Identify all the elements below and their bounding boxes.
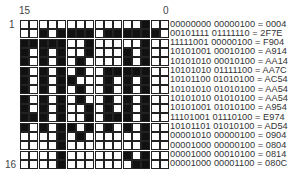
bit-cell[interactable] [104,76,113,85]
bit-cell[interactable] [20,57,29,66]
bit-cell[interactable] [57,95,66,104]
bit-cell[interactable] [39,141,48,150]
bit-cell[interactable] [20,29,29,38]
bit-cell[interactable] [85,20,94,29]
bit-cell[interactable] [48,39,57,48]
bit-cell[interactable] [48,95,57,104]
bit-cell[interactable] [76,95,85,104]
bit-cell[interactable] [76,160,85,169]
bit-cell[interactable] [29,57,38,66]
bit-cell[interactable] [132,95,141,104]
bit-cell[interactable] [48,151,57,160]
bit-cell[interactable] [76,132,85,141]
bit-cell[interactable] [57,123,66,132]
bit-cell[interactable] [20,39,29,48]
bit-cell[interactable] [160,57,169,66]
bit-cell[interactable] [67,132,76,141]
bit-cell[interactable] [151,39,160,48]
bit-cell[interactable] [160,104,169,113]
bit-cell[interactable] [20,141,29,150]
bit-cell[interactable] [151,57,160,66]
bit-cell[interactable] [104,160,113,169]
bit-cell[interactable] [20,123,29,132]
bit-cell[interactable] [67,57,76,66]
bit-cell[interactable] [141,20,150,29]
bit-cell[interactable] [20,20,29,29]
bit-cell[interactable] [39,85,48,94]
bit-cell[interactable] [29,160,38,169]
bit-cell[interactable] [95,39,104,48]
bit-cell[interactable] [67,76,76,85]
bit-cell[interactable] [95,123,104,132]
bit-cell[interactable] [95,76,104,85]
bit-cell[interactable] [29,20,38,29]
bit-cell[interactable] [123,123,132,132]
bit-cell[interactable] [141,123,150,132]
bit-cell[interactable] [67,141,76,150]
bit-cell[interactable] [141,48,150,57]
bit-cell[interactable] [141,95,150,104]
bit-cell[interactable] [132,104,141,113]
bit-cell[interactable] [85,132,94,141]
bit-cell[interactable] [113,151,122,160]
bit-cell[interactable] [104,113,113,122]
bit-cell[interactable] [113,57,122,66]
bit-cell[interactable] [95,141,104,150]
bit-cell[interactable] [67,104,76,113]
bit-cell[interactable] [95,113,104,122]
bit-cell[interactable] [29,85,38,94]
bit-cell[interactable] [39,95,48,104]
bit-cell[interactable] [160,48,169,57]
bit-cell[interactable] [141,113,150,122]
bit-cell[interactable] [67,113,76,122]
bit-cell[interactable] [57,151,66,160]
bit-cell[interactable] [39,132,48,141]
bit-cell[interactable] [48,141,57,150]
bit-cell[interactable] [160,123,169,132]
bit-cell[interactable] [85,85,94,94]
bit-cell[interactable] [113,113,122,122]
bit-cell[interactable] [95,20,104,29]
bit-cell[interactable] [29,123,38,132]
bit-cell[interactable] [141,29,150,38]
bit-cell[interactable] [48,160,57,169]
bit-cell[interactable] [104,67,113,76]
bit-cell[interactable] [85,57,94,66]
bit-cell[interactable] [76,20,85,29]
bit-cell[interactable] [132,67,141,76]
bit-cell[interactable] [29,39,38,48]
bit-cell[interactable] [123,48,132,57]
bit-cell[interactable] [39,57,48,66]
bit-cell[interactable] [20,104,29,113]
bit-cell[interactable] [67,67,76,76]
bit-cell[interactable] [123,76,132,85]
bit-cell[interactable] [85,29,94,38]
bit-cell[interactable] [123,151,132,160]
bit-cell[interactable] [141,39,150,48]
bit-cell[interactable] [104,104,113,113]
bit-cell[interactable] [123,160,132,169]
bit-cell[interactable] [29,67,38,76]
bit-cell[interactable] [113,104,122,113]
bit-cell[interactable] [39,113,48,122]
bit-cell[interactable] [132,57,141,66]
bit-cell[interactable] [48,48,57,57]
bit-cell[interactable] [113,132,122,141]
bit-cell[interactable] [76,29,85,38]
bit-cell[interactable] [123,39,132,48]
bit-cell[interactable] [39,20,48,29]
bit-cell[interactable] [95,132,104,141]
bit-cell[interactable] [57,57,66,66]
bit-cell[interactable] [104,141,113,150]
bit-cell[interactable] [160,39,169,48]
bit-cell[interactable] [29,76,38,85]
bit-cell[interactable] [39,160,48,169]
bit-cell[interactable] [113,141,122,150]
bit-cell[interactable] [67,48,76,57]
bit-cell[interactable] [29,151,38,160]
bit-cell[interactable] [85,48,94,57]
bit-cell[interactable] [104,29,113,38]
bit-cell[interactable] [132,132,141,141]
bit-cell[interactable] [132,29,141,38]
bit-cell[interactable] [48,123,57,132]
